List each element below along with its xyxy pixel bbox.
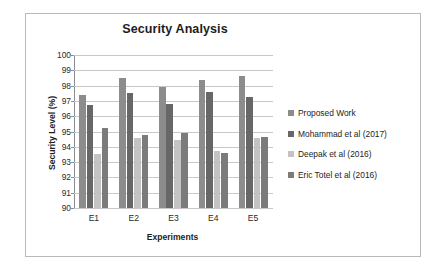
y-tick-label: 99 [49,66,71,74]
bar [214,151,221,208]
gridline [74,208,273,209]
legend-label: Mohammad et al (2017) [298,129,387,139]
x-tick-label: E1 [74,213,114,223]
chart-title: Security Analysis [60,22,290,36]
legend-item[interactable]: Proposed Work [288,108,418,118]
bar [119,78,126,208]
bar [159,87,166,208]
bar [142,135,149,208]
bar [221,153,228,208]
y-tick-label: 95 [49,128,71,136]
bar [87,105,94,208]
y-tick-label: 91 [49,189,71,197]
legend-item[interactable]: Mohammad et al (2017) [288,129,418,139]
legend-swatch-icon [288,131,294,137]
bar [199,80,206,208]
legend-swatch-icon [288,110,294,116]
bar [102,128,109,208]
bar [246,97,253,208]
bar-group [74,55,114,208]
legend-label: Deepak et al (2016) [298,149,372,159]
legend-item[interactable]: Eric Totel et al (2016) [288,170,418,180]
plot-area [74,55,273,208]
x-axis-label: Experiments [70,232,275,242]
chart-legend: Proposed WorkMohammad et al (2017)Deepak… [288,108,418,190]
bar [127,93,134,209]
legend-label: Eric Totel et al (2016) [298,170,377,180]
y-tick-label: 100 [49,51,71,59]
legend-label: Proposed Work [298,108,356,118]
x-tick-label: E2 [114,213,154,223]
bar [239,76,246,208]
y-tick-label: 94 [49,143,71,151]
legend-swatch-icon [288,172,294,178]
y-axis-tick-labels: 10099989796959493929190 [48,55,71,208]
legend-swatch-icon [288,151,294,157]
bar [174,140,181,208]
y-tick-label: 93 [49,158,71,166]
bar [254,138,261,208]
y-tick-label: 98 [49,82,71,90]
bar-group [114,55,154,208]
legend-item[interactable]: Deepak et al (2016) [288,149,418,159]
x-tick-label: E3 [154,213,194,223]
bar-group [154,55,194,208]
figure-container: Security Analysis Security Level (%) Exp… [0,0,441,277]
y-tick-label: 92 [49,173,71,181]
bar-group [193,55,233,208]
y-tick-label: 90 [49,204,71,212]
bar [134,138,141,208]
bar [94,154,101,208]
bar [206,92,213,208]
x-tick-label: E4 [193,213,233,223]
bar [261,137,268,208]
bar [166,104,173,208]
bar [181,133,188,208]
bar-group [233,55,273,208]
y-tick-label: 97 [49,97,71,105]
x-tick-label: E5 [233,213,273,223]
bar [79,95,86,208]
y-tick-label: 96 [49,112,71,120]
